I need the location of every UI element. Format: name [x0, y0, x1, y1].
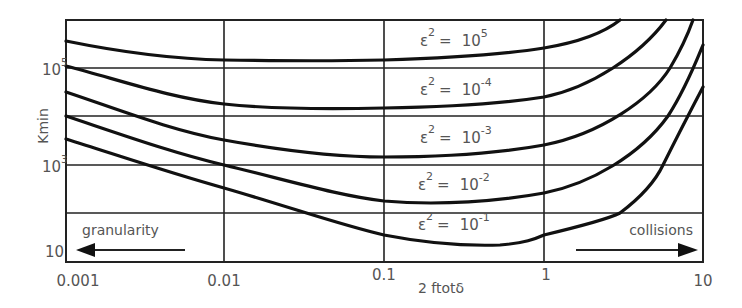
granularity-label: granularity	[82, 222, 159, 238]
label-eps-1e-5: ε2=105	[420, 26, 488, 50]
x-tick-1: 1	[541, 266, 551, 284]
collisions-label: collisions	[629, 222, 693, 238]
y-tick-labels: 105 103 10	[42, 57, 67, 261]
collisions-arrow-icon	[576, 243, 698, 257]
chart: ε2=105 ε2=10-4 ε2=10-3 ε2=10-2 ε2=10-1 1…	[0, 0, 742, 308]
y-tick-1e3: 103	[42, 154, 67, 176]
label-eps-1e-3: ε2=10-3	[420, 123, 492, 147]
curve-eps-1e-5	[66, 20, 620, 61]
x-axis-title: 2 ftotδ	[418, 280, 464, 296]
x-tick-10: 10	[693, 272, 712, 290]
x-tick-0.01: 0.01	[207, 272, 240, 290]
y-tick-10: 10	[45, 243, 64, 261]
label-eps-1e-4: ε2=10-4	[420, 75, 492, 99]
granularity-arrow-icon	[76, 243, 185, 257]
curve-eps-1e-3	[66, 20, 693, 157]
vertical-gridlines	[224, 20, 544, 262]
y-tick-1e5: 105	[42, 57, 67, 79]
y-axis-title: Kmin	[35, 108, 51, 144]
x-tick-0.001: 0.001	[57, 272, 100, 290]
label-eps-1e-2: ε2=10-2	[418, 170, 490, 194]
x-tick-labels: 0.001 0.01 0.1 1 10	[57, 266, 713, 290]
x-tick-0.1: 0.1	[372, 266, 396, 284]
curve-eps-1e-4	[66, 20, 666, 109]
